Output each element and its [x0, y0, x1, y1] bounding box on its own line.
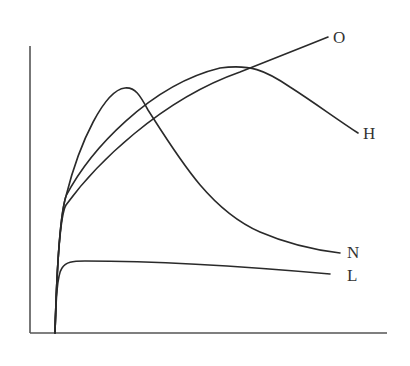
label-L: L [347, 267, 357, 284]
curve-H [55, 67, 358, 333]
chart-plot [0, 0, 410, 366]
curve-L [55, 261, 330, 333]
label-N: N [347, 244, 359, 261]
curve-O [55, 37, 328, 333]
label-O: O [333, 29, 345, 46]
label-H: H [363, 125, 375, 142]
curve-N [55, 88, 340, 333]
chart: O H N L [0, 0, 410, 366]
